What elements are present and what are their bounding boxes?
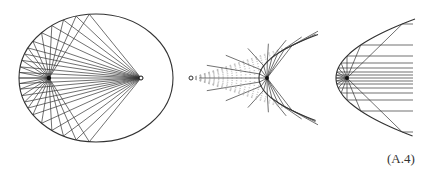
reflection-diagram [0, 0, 434, 178]
ellipse-panel [19, 14, 173, 142]
focus-point [139, 76, 143, 80]
focus-point [47, 76, 51, 80]
focus-point [345, 76, 349, 80]
parabola-panel [336, 19, 415, 136]
source-point [189, 76, 193, 80]
focus-point [265, 76, 269, 80]
source-parabola-panel [189, 31, 318, 125]
figure-label: (A.4) [387, 151, 415, 167]
